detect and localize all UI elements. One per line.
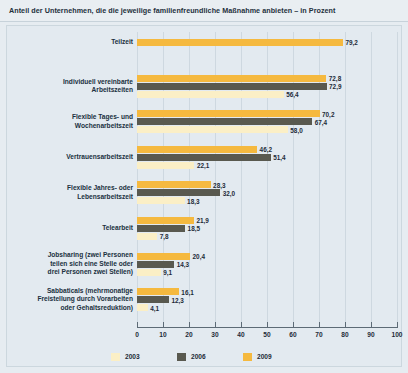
axis-tick-label: 50 bbox=[263, 331, 270, 338]
category-label-line: Vertrauensarbeitszeit bbox=[9, 153, 133, 162]
gridline bbox=[397, 32, 398, 326]
bar-2006 bbox=[137, 261, 174, 268]
bar-2009 bbox=[137, 288, 179, 295]
category-label-line: Lebensarbeitszeit bbox=[9, 193, 133, 202]
bar-2003 bbox=[137, 197, 185, 204]
bar-value-label: 72,9 bbox=[329, 83, 341, 90]
category-label-line: Wochenarbeitszeit bbox=[9, 122, 133, 131]
axis-tick-label: 60 bbox=[289, 331, 296, 338]
bar-value-label: 20,4 bbox=[193, 253, 205, 260]
category-label-line: Jobsharing (zwei Personen bbox=[9, 251, 133, 260]
category-label: Teilzeit bbox=[9, 38, 133, 47]
bar-value-label: 32,0 bbox=[223, 190, 235, 197]
bar-value-label: 28,3 bbox=[213, 182, 225, 189]
category-label: Flexible Jahres- oderLebensarbeitszeit bbox=[9, 184, 133, 201]
axis-tick-label: 40 bbox=[237, 331, 244, 338]
category-label-line: Flexible Tages- und bbox=[9, 113, 133, 122]
bar-value-label: 56,4 bbox=[286, 91, 298, 98]
category-label-line: Teilzeit bbox=[9, 38, 133, 47]
bar-value-label: 51,4 bbox=[273, 154, 285, 161]
bar-value-label: 79,2 bbox=[345, 39, 357, 46]
plot-area: 010203040506070809010079,2Teilzeit72,872… bbox=[7, 26, 403, 368]
bar-2009 bbox=[137, 253, 190, 260]
bar-value-label: 7,8 bbox=[160, 233, 169, 240]
axis-tick bbox=[397, 322, 398, 328]
category-label: Flexible Tages- undWochenarbeitszeit bbox=[9, 113, 133, 130]
bar-2003 bbox=[137, 162, 194, 169]
category-label-line: oder Gehaltsreduktion) bbox=[9, 304, 133, 313]
bar-value-label: 72,8 bbox=[329, 75, 341, 82]
axis-tick-label: 80 bbox=[341, 331, 348, 338]
page-title: Anteil der Unternehmen, die die jeweilig… bbox=[9, 6, 336, 15]
axis-tick-label: 70 bbox=[315, 331, 322, 338]
category-label: Individuell vereinbarteArbeitszeiten bbox=[9, 78, 133, 95]
bar-value-label: 67,4 bbox=[315, 119, 327, 126]
bar-2006 bbox=[137, 83, 327, 90]
bar-2006 bbox=[137, 296, 169, 303]
bar-value-label: 46,2 bbox=[260, 146, 272, 153]
bar-value-label: 12,3 bbox=[171, 297, 183, 304]
bar-value-label: 58,0 bbox=[290, 127, 302, 134]
bar-2006 bbox=[137, 154, 271, 161]
category-label-line: drei Personen zwei Stellen) bbox=[9, 268, 133, 277]
bar-value-label: 70,2 bbox=[322, 111, 334, 118]
bar-2003 bbox=[137, 269, 161, 276]
category-label: Sabbaticals (mehrmonatigeFreistellung du… bbox=[9, 287, 133, 313]
legend-swatch-icon bbox=[111, 353, 120, 361]
category-label-line: Freistellung durch Vorarbeiten bbox=[9, 295, 133, 304]
bar-2009 bbox=[137, 75, 326, 82]
bar-value-label: 9,1 bbox=[163, 269, 172, 276]
axis-tick-label: 30 bbox=[211, 331, 218, 338]
bar-value-label: 22,1 bbox=[197, 162, 209, 169]
category-label: Jobsharing (zwei Personenteilen sich ein… bbox=[9, 251, 133, 277]
bar-value-label: 21,9 bbox=[196, 217, 208, 224]
category-label-line: Sabbaticals (mehrmonatige bbox=[9, 287, 133, 296]
legend-swatch-icon bbox=[243, 353, 252, 361]
bar-2003 bbox=[137, 304, 148, 311]
bar-2006 bbox=[137, 225, 185, 232]
bar-2009 bbox=[137, 110, 320, 117]
category-label: Vertrauensarbeitszeit bbox=[9, 153, 133, 162]
legend-label: 2009 bbox=[257, 353, 272, 360]
category-label-line: Telearbeit bbox=[9, 224, 133, 233]
title-bar: Anteil der Unternehmen, die die jeweilig… bbox=[0, 0, 408, 22]
legend-swatch-icon bbox=[177, 353, 186, 361]
bar-2009 bbox=[137, 181, 211, 188]
gridline bbox=[345, 32, 346, 326]
category-label-line: Arbeitszeiten bbox=[9, 86, 133, 95]
axis-tick-label: 20 bbox=[185, 331, 192, 338]
bar-2006 bbox=[137, 118, 312, 125]
bar-2009 bbox=[137, 217, 194, 224]
x-axis-line bbox=[137, 327, 397, 328]
bar-value-label: 4,1 bbox=[150, 305, 159, 312]
gridline bbox=[371, 32, 372, 326]
bar-2009 bbox=[137, 146, 257, 153]
legend-label: 2003 bbox=[125, 353, 140, 360]
category-label-line: Flexible Jahres- oder bbox=[9, 184, 133, 193]
category-label: Telearbeit bbox=[9, 224, 133, 233]
bar-2003 bbox=[137, 233, 157, 240]
bar-2009 bbox=[137, 39, 343, 46]
bar-2006 bbox=[137, 189, 220, 196]
category-label-line: teilen sich eine Stelle oder bbox=[9, 260, 133, 269]
axis-tick-label: 90 bbox=[367, 331, 374, 338]
axis-tick-label: 100 bbox=[391, 331, 402, 338]
bar-value-label: 16,1 bbox=[181, 289, 193, 296]
bar-value-label: 14,3 bbox=[177, 261, 189, 268]
category-label-line: Individuell vereinbarte bbox=[9, 78, 133, 87]
bar-2003 bbox=[137, 91, 284, 98]
axis-tick-label: 0 bbox=[135, 331, 139, 338]
bar-value-label: 18,3 bbox=[187, 198, 199, 205]
chart-frame: 010203040506070809010079,2Teilzeit72,872… bbox=[6, 25, 402, 367]
bar-value-label: 18,5 bbox=[188, 225, 200, 232]
bar-2003 bbox=[137, 126, 288, 133]
axis-tick-label: 10 bbox=[159, 331, 166, 338]
legend-label: 2006 bbox=[191, 353, 206, 360]
chart-page: Anteil der Unternehmen, die die jeweilig… bbox=[0, 0, 408, 373]
